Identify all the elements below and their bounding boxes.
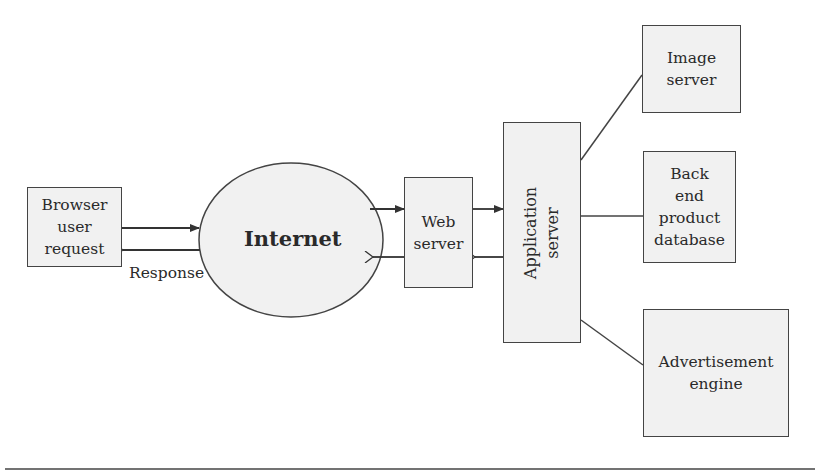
backend-database-node: Back end product database xyxy=(643,151,736,263)
line-appserver-to-imageserver xyxy=(581,75,642,160)
browser-node: Browser user request xyxy=(27,187,122,267)
image-server-node: Image server xyxy=(642,25,741,113)
line-appserver-to-adengine xyxy=(581,320,643,365)
web-server-label: Web server xyxy=(414,211,464,255)
advertisement-engine-label: Advertisement engine xyxy=(659,351,774,395)
image-server-label: Image server xyxy=(667,47,717,91)
backend-database-label: Back end product database xyxy=(654,163,725,251)
advertisement-engine-node: Advertisement engine xyxy=(643,309,789,437)
application-server-label: Application server xyxy=(520,186,564,278)
response-label: Response xyxy=(129,264,204,282)
application-server-node: Application server xyxy=(503,122,581,343)
browser-label: Browser user request xyxy=(42,194,108,260)
web-server-node: Web server xyxy=(404,177,473,288)
internet-label: Internet xyxy=(244,226,342,251)
